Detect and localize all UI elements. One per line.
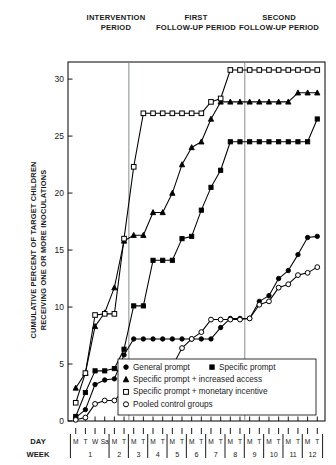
data-point [257,68,262,73]
x-week-label: 5 [175,450,179,459]
data-point [257,140,261,144]
x-day-label: T [141,438,145,445]
week-axis-caption: WEEK [26,450,50,459]
x-week-label: 1 [88,450,92,459]
series-line [76,93,318,388]
vaccination-cumulative-percent-chart: INTERVENTIONPERIODFIRSTFOLLOW-UP PERIODS… [0,0,336,465]
y-tick-label: 15 [55,245,65,255]
x-day-label: M [208,438,214,445]
data-point [228,68,233,73]
data-point [305,235,309,239]
data-point [83,407,87,411]
data-point [306,140,310,144]
y-tick-label: 0 [59,416,64,426]
period-headers: INTERVENTIONPERIODFIRSTFOLLOW-UP PERIODS… [87,13,320,32]
series-line [76,70,318,403]
y-axis-title: CUMULATIVE PERCENT OF TARGET CHILDRENREC… [29,161,48,338]
x-week-label: 11 [289,450,296,459]
data-point [199,337,203,341]
y-tick-label: 20 [55,188,65,198]
x-day-label: M [305,438,311,445]
y-axis-title-line: RECEIVING ONE OR MORE INOCULATIONS [39,170,48,331]
data-point [315,265,320,270]
series-specific-prompt-increased-access [73,90,320,390]
data-point [141,304,145,308]
x-day-label: M [112,438,118,445]
period-header-line1: SECOND [262,13,296,22]
period-header: FIRSTFOLLOW-UP PERIOD [156,13,236,32]
data-point [161,258,165,262]
x-day-label: T [180,438,184,445]
period-header: SECONDFOLLOW-UP PERIOD [239,13,319,32]
legend-open-circle-icon [123,402,128,407]
data-point [83,390,87,394]
data-point [209,317,214,322]
period-header: INTERVENTIONPERIOD [87,13,146,32]
legend-layer[interactable]: General promptSpecific promptSpecific pr… [118,359,316,415]
x-day-label: W [92,438,99,445]
x-day-label: T [161,438,165,445]
data-point [286,282,291,287]
data-point [170,337,174,341]
x-day-label: T [296,438,300,445]
y-tick-label: 30 [55,74,65,84]
legend-label: Specific prompt [219,363,276,372]
y-tick-label: 10 [55,302,65,312]
x-day-label: M [266,438,272,445]
period-header-line1: FIRST [185,13,208,22]
data-point [160,111,165,116]
legend-label: Specific prompt + monetary incentive [133,387,268,396]
data-point [131,337,135,341]
legend-item[interactable]: Specific prompt + increased access [123,375,262,384]
data-point [180,111,185,116]
data-point [180,237,184,241]
legend-item[interactable]: Specific prompt [210,363,276,372]
x-day-label: M [150,438,156,445]
x-week-label: 10 [270,450,278,459]
x-day-label: T [257,438,261,445]
data-point [218,317,223,322]
data-point [122,236,127,241]
y-tick-label: 5 [59,359,64,369]
data-point [141,337,145,341]
data-point [238,68,243,73]
x-day-label: T [83,438,87,445]
data-point [286,68,291,73]
x-day-label: M [73,438,79,445]
day-axis-caption: DAY [30,437,46,446]
data-point [296,252,300,256]
data-point [112,285,117,290]
legend-item[interactable]: Pooled control groups [123,400,212,409]
data-point [286,140,290,144]
y-axis-title-line: CUMULATIVE PERCENT OF TARGET CHILDREN [29,161,38,338]
legend-filled-square-icon [210,365,214,369]
data-point [296,273,301,278]
data-point [93,313,98,318]
legend-item[interactable]: Specific prompt + monetary incentive [124,387,268,396]
data-point [179,162,184,167]
data-point [276,276,280,280]
data-point [305,270,310,275]
x-day-label: M [286,438,292,445]
x-day-label: Sa [101,438,109,445]
data-point [315,234,319,238]
legend-item[interactable]: General prompt [124,363,191,372]
data-point [296,140,300,144]
data-point [102,398,107,403]
data-point [112,312,117,317]
data-point [180,337,184,341]
data-point [122,347,126,351]
data-point [209,185,213,189]
data-point [151,111,156,116]
data-point [248,140,252,144]
data-point [276,285,281,290]
data-point [93,369,97,373]
x-week-label: 8 [233,450,237,459]
data-point [199,330,204,335]
legend-label: General prompt [133,363,191,372]
data-point [238,317,243,322]
data-point [93,401,98,406]
data-point [228,317,233,322]
data-point [267,293,271,297]
data-point [93,382,97,386]
